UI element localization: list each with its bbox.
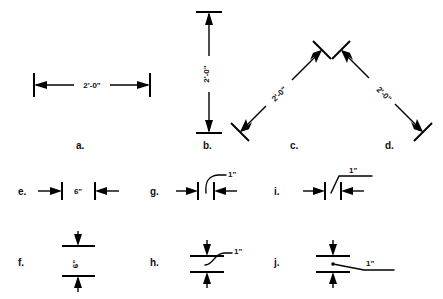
dimension-value-d: 2'-0" (374, 85, 393, 104)
arrowhead-upper-b (341, 50, 350, 63)
item-label-h: h. (150, 258, 159, 268)
dimension-value-j: 1" (366, 259, 374, 268)
arrowhead-bottom (205, 120, 213, 133)
dimension-value-f: 6" (71, 260, 80, 268)
arrowhead-bottom (203, 272, 211, 284)
item-label-c: c. (290, 141, 298, 151)
dimension-i: 1" (303, 166, 372, 200)
arrowhead-lower-b (240, 119, 249, 132)
arrowhead-right (137, 81, 150, 89)
item-label-e: e. (18, 187, 26, 197)
dimension-b: 2'-0" (196, 12, 222, 133)
arrowhead-top (205, 12, 213, 25)
dimension-value-h: 1" (234, 247, 242, 256)
item-label-i: i. (274, 187, 280, 197)
dimension-h: 1" (190, 240, 242, 288)
item-label-j: j. (274, 258, 280, 268)
item-label-d: d. (385, 141, 394, 151)
item-label-f: f. (18, 258, 24, 268)
arrowhead-left (313, 187, 325, 195)
dimension-styles-figure: 2'-0" 2'-0" 2'-0" (0, 0, 443, 299)
arrowhead-upper-b (313, 50, 322, 63)
dimension-f: 6" (62, 231, 95, 292)
arrowhead-lower-b (414, 119, 423, 132)
dimension-e: 6" (38, 182, 119, 200)
arrowhead-right (95, 187, 107, 195)
dimension-value-c: 2'-0" (270, 85, 289, 104)
dimension-g: 1" (176, 170, 237, 200)
dimension-value-g: 1" (228, 170, 236, 179)
leader-line-straight-shelf (333, 264, 394, 270)
arrowhead-left (186, 187, 198, 195)
arrowhead-left (34, 81, 47, 89)
leader-line-curved-s (205, 253, 232, 265)
arrowhead-top (329, 244, 337, 256)
arrowhead-bottom (329, 272, 337, 284)
arrowhead-right (214, 187, 226, 195)
arrowhead-left (50, 187, 62, 195)
dimension-j: 1" (316, 240, 394, 288)
figure-canvas: 2'-0" 2'-0" 2'-0" (0, 0, 443, 299)
arrowhead-top (74, 234, 82, 246)
item-label-b: b. (203, 141, 212, 151)
dimension-a: 2'-0" (34, 73, 150, 97)
arrowhead-bottom (74, 276, 82, 288)
dimension-value-a: 2'-0" (83, 81, 100, 90)
dimension-value-e: 6" (74, 187, 82, 196)
dimension-d: 2'-0" (332, 41, 432, 141)
dimension-c: 2'-0" (231, 41, 331, 141)
item-label-a: a. (76, 141, 84, 151)
dimension-value-i: 1" (349, 166, 357, 175)
arrowhead-right (341, 187, 353, 195)
item-label-g: g. (150, 187, 159, 197)
arrowhead-top (203, 244, 211, 256)
dimension-value-b: 2'-0" (202, 65, 211, 82)
